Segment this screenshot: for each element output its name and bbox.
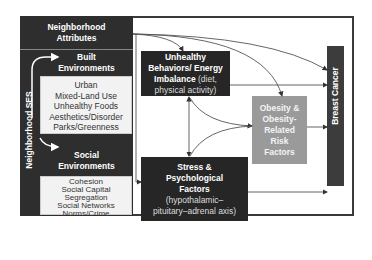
ses-to-built-arrow xyxy=(32,57,58,118)
stress-to-obesity-arrow xyxy=(190,126,252,156)
behaviors-to-obesity-arrow xyxy=(190,98,252,126)
na-to-cancer-arrow xyxy=(133,34,327,70)
ses-to-social-arrow xyxy=(40,138,58,147)
na-to-stress-arrow xyxy=(136,34,141,182)
na-to-obesity-arrow xyxy=(133,34,282,96)
arrows-layer xyxy=(0,0,372,260)
